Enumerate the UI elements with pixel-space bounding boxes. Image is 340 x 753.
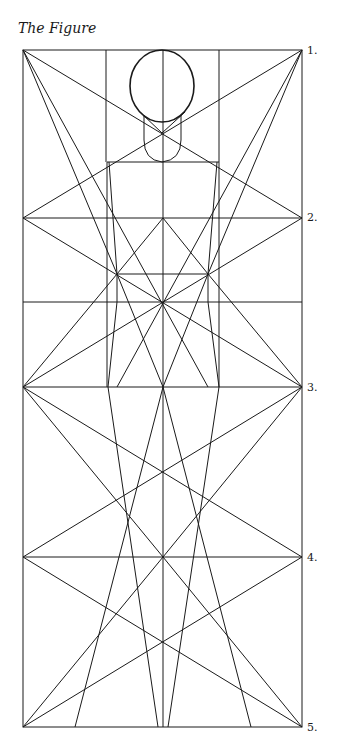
diag [23, 274, 117, 387]
diag [23, 50, 117, 274]
diag [163, 557, 302, 727]
diag [117, 274, 163, 387]
diag [163, 387, 302, 557]
diag [23, 557, 163, 727]
diag [163, 218, 208, 274]
figure-proportion-diagram [0, 0, 340, 753]
diag [208, 274, 302, 387]
diag [208, 50, 302, 274]
diag [23, 387, 163, 557]
head-outline [130, 50, 194, 122]
diag [117, 218, 163, 274]
